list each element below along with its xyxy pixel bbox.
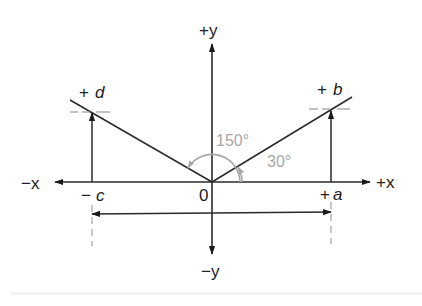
span-arrow-left	[92, 213, 212, 214]
bottom-band	[10, 292, 422, 295]
neg-x-label: −x	[21, 174, 40, 193]
label-b: + b	[317, 80, 342, 99]
svg-text:c: c	[96, 186, 105, 205]
neg-y-label: −y	[201, 262, 220, 281]
vector-diagram: +x −x +y −y 0 + a + b − c + d 150° 30°	[0, 0, 422, 306]
svg-text:+: +	[320, 185, 330, 204]
span-arrow-right	[212, 212, 331, 213]
svg-text:+: +	[317, 80, 327, 99]
svg-text:+: +	[79, 83, 89, 102]
origin-label: 0	[199, 186, 208, 205]
svg-text:−: −	[81, 186, 91, 205]
pos-x-label: +x	[376, 173, 395, 192]
svg-text:d: d	[95, 83, 105, 102]
label-d: + d	[79, 83, 105, 102]
angle-label-30: 30°	[267, 153, 291, 170]
label-a: + a	[320, 185, 342, 204]
label-c: − c	[81, 186, 105, 205]
svg-text:a: a	[333, 185, 342, 204]
pos-y-label: +y	[199, 21, 218, 40]
angle-label-150: 150°	[216, 132, 249, 149]
svg-text:b: b	[333, 80, 342, 99]
angle-arc-150	[188, 154, 240, 182]
